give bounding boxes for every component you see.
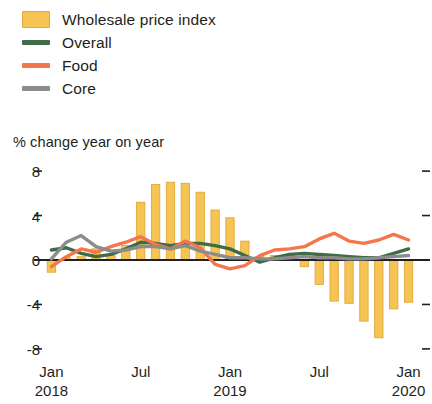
- legend-item-overall: Overall: [22, 31, 342, 54]
- x-tick-month: Jan: [39, 363, 63, 380]
- bar: [390, 260, 398, 309]
- bar: [181, 183, 189, 260]
- x-tick-month: Jan: [396, 363, 420, 380]
- x-tick-month: Jul: [310, 363, 329, 380]
- y-tick-label: 4: [32, 207, 40, 224]
- bar: [375, 260, 383, 338]
- legend-label: Overall: [62, 34, 112, 51]
- y-tick-label: 8: [32, 163, 40, 180]
- chart-subtitle: % change year on year: [13, 134, 164, 150]
- bar: [137, 202, 145, 260]
- y-axis-tick-labels: 840-4-8: [0, 160, 40, 360]
- bar: [226, 218, 234, 260]
- legend-label: Core: [62, 80, 96, 97]
- bar: [360, 260, 368, 321]
- y-tick-label: 0: [32, 252, 40, 269]
- legend-swatch-line-icon: [22, 34, 50, 51]
- x-tick-month: Jan: [218, 363, 242, 380]
- bar: [404, 260, 412, 302]
- plot-area: 840-4-8: [0, 160, 432, 360]
- legend-swatch-box-icon: [22, 11, 50, 28]
- legend-swatch-line-icon: [22, 80, 50, 97]
- bar: [315, 260, 323, 284]
- x-tick-year: 2018: [35, 381, 68, 400]
- legend-label: Food: [62, 57, 98, 74]
- x-tick-year: 2019: [213, 381, 246, 400]
- bar: [300, 260, 308, 267]
- legend-item-core: Core: [22, 77, 342, 100]
- legend-item-food: Food: [22, 54, 342, 77]
- y-tick-label: -8: [27, 340, 40, 357]
- chart-legend: Wholesale price index Overall Food Core: [22, 8, 342, 100]
- chart-canvas: [0, 160, 432, 360]
- x-tick-year: 2020: [392, 381, 425, 400]
- bar: [330, 260, 338, 301]
- x-tick-label: Jul: [131, 362, 150, 381]
- legend-label: Wholesale price index: [62, 11, 216, 28]
- bar: [345, 260, 353, 303]
- y-tick-label: -4: [27, 296, 40, 313]
- x-tick-label: Jan2018: [35, 362, 68, 400]
- x-axis-tick-labels: Jan2018JulJan2019JulJan2020: [0, 362, 432, 404]
- legend-item-wholesale-price-index: Wholesale price index: [22, 8, 342, 31]
- x-tick-label: Jul: [310, 362, 329, 381]
- chart-figure: Wholesale price index Overall Food Core …: [0, 0, 432, 404]
- x-tick-month: Jul: [131, 363, 150, 380]
- legend-swatch-line-icon: [22, 57, 50, 74]
- x-tick-label: Jan2020: [392, 362, 425, 400]
- x-tick-label: Jan2019: [213, 362, 246, 400]
